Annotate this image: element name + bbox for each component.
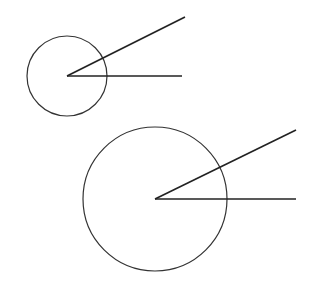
small-figure [27,17,185,116]
small-upper-ray [67,17,185,76]
angle-circles-diagram [0,0,326,284]
diagram-canvas [0,0,326,284]
large-figure [83,127,296,271]
large-upper-ray [155,130,296,199]
